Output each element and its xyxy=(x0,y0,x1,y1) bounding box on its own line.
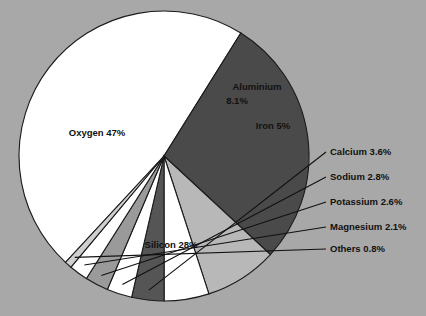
slice-label-silicon: Silicon 28% xyxy=(145,239,198,250)
slice-label-oxygen: Oxygen 47% xyxy=(69,127,126,138)
slice-label-iron: Iron 5% xyxy=(256,120,291,131)
slice-label-others: Others 0.8% xyxy=(330,243,385,254)
slice-label-calcium: Calcium 3.6% xyxy=(330,146,392,157)
slice-label-aluminium-line1: Aluminium xyxy=(232,81,281,92)
slice-label-sodium: Sodium 2.8% xyxy=(330,171,390,182)
slice-label-magnesium: Magnesium 2.1% xyxy=(330,221,407,232)
pie-chart-figure: Oxygen 47% Silicon 28% Aluminium 8.1% Ir… xyxy=(0,0,426,316)
slice-label-aluminium-line2: 8.1% xyxy=(226,95,248,106)
pie-slices-group xyxy=(19,11,309,301)
pie-chart-svg: Oxygen 47% Silicon 28% Aluminium 8.1% Ir… xyxy=(0,0,426,316)
slice-label-potassium: Potassium 2.6% xyxy=(330,196,403,207)
